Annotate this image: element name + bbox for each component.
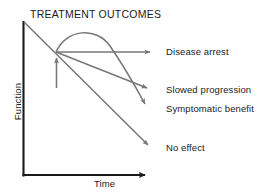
chart-title: TREATMENT OUTCOMES (30, 9, 161, 20)
curve-slowed-progression (56, 52, 147, 88)
outcome-curves-svg (0, 0, 267, 193)
axis-group (23, 22, 146, 176)
curve-no-effect (24, 22, 148, 145)
figure-canvas: TREATMENT OUTCOMES Disease arrest Slowed… (0, 0, 267, 193)
label-disease-arrest: Disease arrest (166, 46, 229, 57)
label-symptomatic-benefit: Symptomatic benefit (166, 103, 254, 114)
y-axis-label: Function (12, 72, 23, 132)
x-axis-label: Time (94, 178, 115, 189)
label-no-effect: No effect (166, 142, 205, 153)
curve-symptomatic-benefit (56, 33, 145, 104)
label-slowed-progression: Slowed progression (166, 84, 251, 95)
